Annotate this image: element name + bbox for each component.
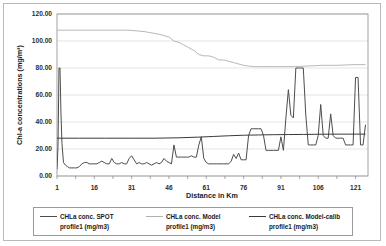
- x-tick-label: 91: [277, 184, 285, 191]
- legend-swatch-spot: [40, 216, 57, 217]
- series-line-2: [57, 134, 366, 138]
- legend-entry-model-calib: CHLa conc. Model-calib profile1 (mg/m3): [249, 212, 340, 232]
- y-axis-title: Chl-a concentrations (mg/m³): [15, 44, 24, 144]
- y-tick-label: 40.00: [35, 118, 52, 125]
- x-axis-title: Distance in Km: [186, 191, 238, 200]
- x-tick-label: 1: [55, 184, 59, 191]
- legend-entry-spot: CHLa conc. SPOT profile1 (mg/m3): [40, 212, 114, 232]
- x-tick-label: 31: [128, 184, 136, 191]
- x-tick-label: 46: [165, 184, 173, 191]
- legend-label-spot-line2: profile1 (mg/m3): [60, 222, 114, 232]
- series-line-1: [57, 30, 366, 66]
- series-line-0: [57, 68, 366, 169]
- y-tick-label: 60.00: [35, 91, 52, 98]
- legend-label-model-line2: profile1 (mg/m3): [166, 222, 221, 232]
- x-tick-label: 61: [203, 184, 211, 191]
- chart-legend: CHLa conc. SPOT profile1 (mg/m3) CHLa co…: [33, 207, 353, 236]
- legend-swatch-model-calib: [249, 216, 266, 217]
- legend-label-spot-line1: CHLa conc. SPOT: [60, 212, 114, 222]
- x-axis-tick-marks: [57, 176, 356, 179]
- x-tick-label: 76: [240, 184, 248, 191]
- x-axis-tick-labels: 1163146617691106121: [55, 184, 361, 191]
- y-tick-label: 20.00: [35, 145, 52, 152]
- gridlines: [57, 14, 368, 176]
- x-tick-label: 121: [350, 184, 361, 191]
- series-lines: [57, 30, 366, 169]
- x-tick-label: 16: [91, 184, 99, 191]
- legend-label-model-line1: CHLa conc. Model: [166, 212, 221, 222]
- legend-label-model: CHLa conc. Model profile1 (mg/m3): [166, 212, 221, 232]
- y-tick-label: 120.00: [32, 10, 53, 17]
- legend-label-model-calib-line1: CHLa conc. Model-calib: [269, 212, 340, 222]
- legend-label-spot: CHLa conc. SPOT profile1 (mg/m3): [60, 212, 114, 232]
- legend-entry-model: CHLa conc. Model profile1 (mg/m3): [146, 212, 221, 232]
- legend-label-model-calib-line2: profile1 (mg/m3): [269, 222, 340, 232]
- y-tick-label: 100.00: [32, 37, 53, 44]
- legend-swatch-model: [146, 216, 163, 217]
- legend-label-model-calib: CHLa conc. Model-calib profile1 (mg/m3): [269, 212, 340, 232]
- x-tick-label: 106: [313, 184, 324, 191]
- y-tick-label: 80.00: [35, 64, 52, 71]
- y-tick-label: 0.00: [39, 172, 52, 179]
- y-axis-tick-labels: 0.0020.0040.0060.0080.00100.00120.00: [32, 10, 53, 179]
